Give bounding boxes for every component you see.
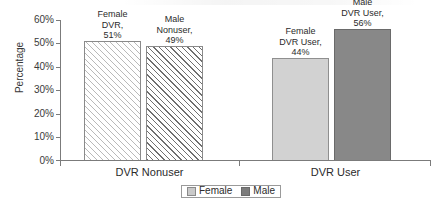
y-tick-label-40: 40%	[18, 62, 54, 72]
bar-chart: Percentage 60% 50% 40% 30% 20% 10% 0% Fe…	[0, 0, 441, 201]
data-label-line-2: DVR User,	[268, 37, 333, 48]
legend: Female Male	[181, 185, 281, 198]
data-label-line-2: DVR User,	[330, 8, 395, 19]
data-label-line-1: Male	[144, 14, 205, 25]
legend-item-male[interactable]: Male	[241, 186, 275, 196]
x-category-label-dvr-nonuser: DVR Nonuser	[60, 166, 239, 178]
data-label-male-dvr-nonuser: Male Nonuser, 49%	[144, 14, 205, 46]
bar-female-dvr-nonuser[interactable]	[84, 41, 141, 161]
data-label-line-3: 56%	[330, 18, 395, 29]
y-tick-mark-30	[56, 90, 60, 91]
y-tick-mark-60	[56, 20, 60, 21]
y-tick-label-10: 10%	[18, 132, 54, 142]
y-tick-label-20: 20%	[18, 109, 54, 119]
y-tick-label-60: 60%	[18, 15, 54, 25]
legend-label-female: Female	[199, 186, 232, 196]
data-label-male-dvr-user: Male DVR User, 56%	[330, 0, 395, 29]
y-tick-mark-10	[56, 137, 60, 138]
y-tick-label-30: 30%	[18, 85, 54, 95]
legend-swatch-female-icon	[187, 187, 196, 196]
data-label-line-3: 44%	[268, 47, 333, 58]
legend-label-male: Male	[253, 186, 275, 196]
data-label-line-1: Male	[330, 0, 395, 8]
y-tick-mark-50	[56, 43, 60, 44]
y-tick-mark-20	[56, 114, 60, 115]
data-label-line-2: Nonuser,	[144, 25, 205, 36]
bar-male-dvr-user[interactable]	[334, 29, 391, 161]
x-axis-line	[60, 160, 431, 161]
y-tick-label-50: 50%	[18, 38, 54, 48]
y-axis-tick-labels: 60% 50% 40% 30% 20% 10% 0%	[18, 0, 54, 201]
data-label-line-1: Female	[268, 26, 333, 37]
legend-swatch-male-icon	[241, 187, 250, 196]
data-label-female-dvr-user: Female DVR User, 44%	[268, 26, 333, 58]
y-tick-mark-40	[56, 67, 60, 68]
y-axis-line	[60, 20, 61, 161]
legend-item-female[interactable]: Female	[187, 186, 232, 196]
data-label-line-2: DVR,	[82, 20, 143, 31]
data-label-line-3: 49%	[144, 35, 205, 46]
x-category-label-dvr-user: DVR User	[240, 166, 431, 178]
y-tick-label-0: 0%	[18, 156, 54, 166]
data-label-female-dvr-nonuser: Female DVR, 51%	[82, 9, 143, 41]
bar-male-dvr-nonuser[interactable]	[146, 46, 203, 161]
data-label-line-1: Female	[82, 9, 143, 20]
data-label-line-3: 51%	[82, 30, 143, 41]
bar-female-dvr-user[interactable]	[272, 58, 329, 161]
